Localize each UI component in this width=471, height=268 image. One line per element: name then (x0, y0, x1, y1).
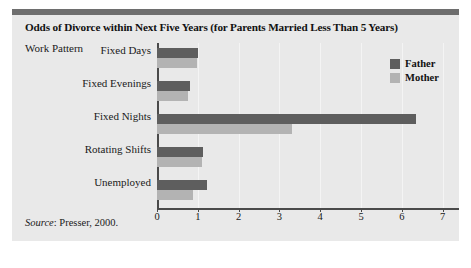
x-tick-label: 2 (236, 211, 241, 222)
source-text: : Presser, 2000. (54, 217, 118, 228)
x-tick-label: 7 (440, 211, 445, 222)
figure-panel: Odds of Divorce within Next Five Years (… (12, 9, 459, 241)
top-rule-divider (12, 9, 459, 15)
x-axis-line (157, 208, 459, 210)
bar-mother (157, 190, 193, 200)
category-label: Fixed Evenings (82, 77, 151, 89)
category-label: Unemployed (94, 176, 151, 188)
bar-group: Fixed Days (157, 43, 459, 76)
bar-mother (157, 157, 202, 167)
bar-group: Fixed Nights (157, 109, 459, 142)
source-label: Source (25, 217, 54, 228)
bar-father (157, 114, 416, 124)
bar-father (157, 180, 207, 190)
bar-mother (157, 124, 292, 134)
bar-father (157, 48, 198, 58)
bar-mother (157, 91, 188, 101)
bar-group: Unemployed (157, 175, 459, 208)
chart-title: Odds of Divorce within Next Five Years (… (25, 21, 398, 33)
x-tick-label: 3 (277, 211, 282, 222)
x-tick-label: 4 (318, 211, 323, 222)
x-tick-label: 5 (358, 211, 363, 222)
category-label: Fixed Nights (94, 110, 151, 122)
y-axis-caption: Work Pattern (25, 42, 95, 55)
plot-area: Fixed DaysFixed EveningsFixed NightsRota… (157, 43, 459, 208)
bar-group: Fixed Evenings (157, 76, 459, 109)
source-note: Source: Presser, 2000. (25, 217, 118, 228)
bar-father (157, 81, 190, 91)
category-label: Fixed Days (101, 44, 151, 56)
x-tick-label: 0 (154, 211, 159, 222)
bar-father (157, 147, 203, 157)
bar-mother (157, 58, 197, 68)
category-label: Rotating Shifts (85, 143, 151, 155)
x-tick-label: 6 (399, 211, 404, 222)
x-tick-label: 1 (195, 211, 200, 222)
bar-group: Rotating Shifts (157, 142, 459, 175)
